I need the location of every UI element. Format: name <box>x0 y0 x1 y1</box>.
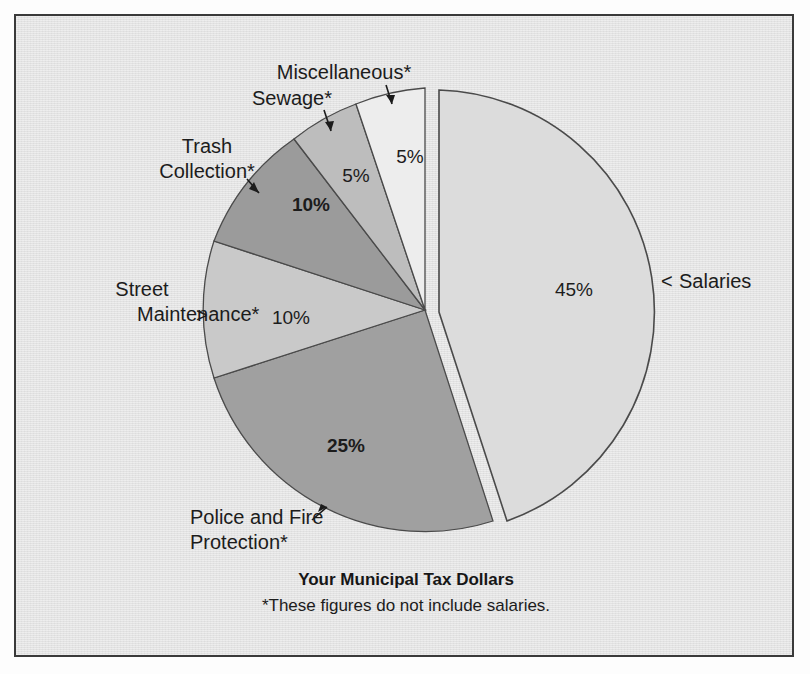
slice-value-trash-collection: 10% <box>292 194 330 215</box>
figure-container: 45% 25% 10% 10% 5% 5% Miscellaneous* Sew… <box>0 0 810 674</box>
callout-label-trash-collection-line2: Collection* <box>159 160 255 182</box>
chart-title: Your Municipal Tax Dollars <box>298 570 514 589</box>
callout-label-street-maintenance-line1: Street <box>115 278 169 300</box>
chart-footnote: *These figures do not include salaries. <box>262 596 550 615</box>
slice-value-street-maintenance: 10% <box>272 307 310 328</box>
slice-value-police-and-fire: 25% <box>327 435 365 456</box>
callout-label-trash-collection-line1: Trash <box>182 135 232 157</box>
slice-value-salaries: 45% <box>555 279 593 300</box>
callout-label-miscellaneous: Miscellaneous* <box>277 61 412 83</box>
callout-marker-salaries: < <box>661 270 673 292</box>
pie-chart: 45% 25% 10% 10% 5% 5% Miscellaneous* Sew… <box>0 0 810 674</box>
slice-value-sewage: 5% <box>342 165 370 186</box>
callout-marker-street-maintenance: > <box>196 304 208 326</box>
slice-value-miscellaneous: 5% <box>396 146 424 167</box>
callout-label-police-and-fire-line2: Protection* <box>190 531 288 553</box>
callout-label-salaries: Salaries <box>679 270 751 292</box>
callout-label-police-and-fire-line1: Police and Fire <box>190 506 323 528</box>
callout-label-sewage: Sewage* <box>252 87 332 109</box>
